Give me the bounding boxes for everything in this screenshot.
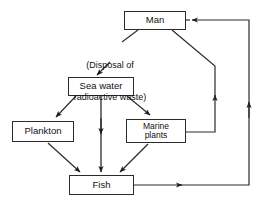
edge-marine-plants-to-fish bbox=[120, 144, 148, 172]
annotation-disposal-line2: radioactive waste) bbox=[60, 92, 160, 103]
node-man-label: Man bbox=[146, 15, 164, 25]
node-fish-label: Fish bbox=[93, 180, 111, 190]
annotation-disposal-line1: (Disposal of bbox=[60, 60, 160, 71]
edge-marine-plants-to-man bbox=[186, 95, 215, 132]
edge-marine-plants-to-man-upper bbox=[172, 30, 215, 99]
node-fish[interactable]: Fish bbox=[69, 175, 134, 195]
node-plankton-label: Plankton bbox=[25, 126, 62, 136]
edge-plankton-to-fish bbox=[48, 143, 80, 172]
edge-fish-to-man-return bbox=[192, 20, 249, 106]
node-man[interactable]: Man bbox=[124, 11, 186, 30]
annotation-disposal-note: (Disposal of radioactive waste) bbox=[60, 39, 160, 124]
node-marine-plants-label: Marine plants bbox=[143, 122, 169, 140]
node-plankton[interactable]: Plankton bbox=[12, 121, 74, 142]
diagram-canvas: Man Sea water Plankton Marine plants Fis… bbox=[0, 0, 261, 204]
